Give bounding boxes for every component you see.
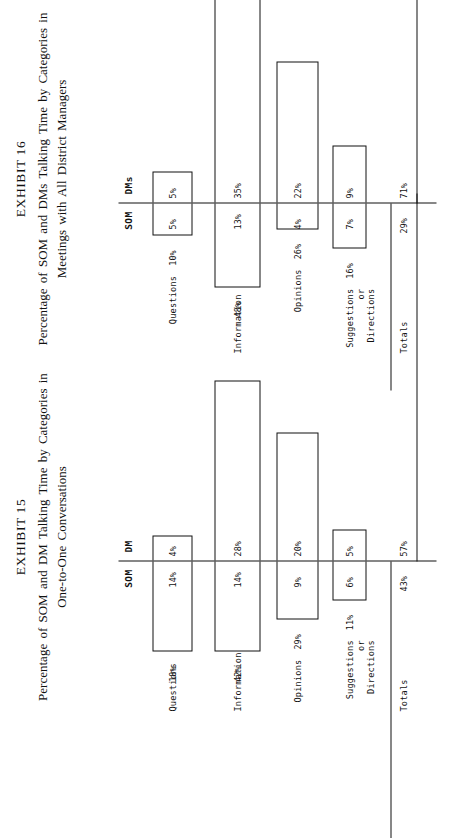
- category-label: Suggestions or Directions: [344, 288, 376, 353]
- som-value: 14%: [232, 572, 242, 587]
- dm-value: 4%: [167, 546, 177, 556]
- bar-axis-divider: [153, 202, 191, 203]
- exhibit-16: EXHIBIT 16 Percentage of SOM and DMs Tal…: [0, 4, 449, 353]
- row-total-value: 18%: [167, 666, 177, 681]
- bar-information: [214, 0, 260, 287]
- category-label: Information: [232, 327, 243, 353]
- column-header-dm: DMs: [122, 176, 133, 194]
- som-value: 9%: [292, 577, 302, 587]
- bar-axis-divider: [215, 560, 259, 561]
- bar-axis-divider: [333, 560, 365, 561]
- row-total-value: 42%: [232, 666, 242, 681]
- category-label: Questions: [167, 691, 178, 711]
- exhibit-16-number: EXHIBIT 16: [12, 4, 28, 353]
- row-total-value: 48%: [232, 301, 242, 316]
- exhibit-15-number: EXHIBIT 15: [12, 362, 28, 711]
- totals-rule: [416, 0, 417, 203]
- row-total-value: 26%: [292, 243, 302, 258]
- bar-axis-divider: [215, 202, 259, 203]
- exhibit-16-title-block: EXHIBIT 16 Percentage of SOM and DMs Tal…: [12, 4, 71, 353]
- dm-value: 9%: [344, 188, 354, 198]
- som-value: 13%: [232, 214, 242, 229]
- dm-value: 22%: [292, 183, 302, 198]
- bar-axis-divider: [277, 560, 317, 561]
- category-label: Suggestions or Directions: [344, 640, 376, 711]
- totals-som-value: 29%: [398, 218, 408, 233]
- column-header-som: SOM: [122, 569, 133, 623]
- exhibit-15-title-block: EXHIBIT 15 Percentage of SOM and DM Talk…: [12, 362, 71, 711]
- exhibit-15-chart: SOMDMQuestions18%14%4%Information42%14%2…: [118, 362, 443, 711]
- row-total-value: 16%: [344, 263, 354, 278]
- totals-dm-value: 71%: [398, 183, 408, 198]
- row-total-value: 10%: [167, 250, 177, 265]
- category-label: Opinions: [292, 659, 303, 711]
- som-value: 14%: [167, 572, 177, 587]
- som-value: 4%: [292, 219, 302, 229]
- totals-dm-value: 57%: [398, 541, 408, 556]
- totals-rule: [390, 203, 391, 390]
- bar-opinions: [276, 432, 318, 619]
- dm-value: 28%: [232, 541, 242, 556]
- dm-value: 5%: [167, 188, 177, 198]
- exhibit-16-subtitle: Percentage of SOM and DMs Talking Time b…: [33, 4, 71, 353]
- som-value: 5%: [167, 219, 177, 229]
- bar-opinions: [276, 61, 318, 229]
- bar-information: [214, 380, 260, 651]
- totals-rule: [390, 561, 391, 838]
- category-label: Opinions: [292, 269, 303, 353]
- dm-value: 5%: [344, 546, 354, 556]
- column-header-dm: DM: [122, 540, 133, 552]
- dm-value: 20%: [292, 541, 302, 556]
- row-total-value: 29%: [292, 634, 302, 649]
- dm-value: 35%: [232, 183, 242, 198]
- som-value: 7%: [344, 219, 354, 229]
- bar-suggestions: [332, 529, 366, 600]
- totals-som-value: 43%: [398, 576, 408, 591]
- totals-label: Totals: [398, 321, 409, 353]
- exhibit-15: EXHIBIT 15 Percentage of SOM and DM Talk…: [0, 362, 449, 711]
- som-value: 6%: [344, 577, 354, 587]
- exhibit-15-subtitle: Percentage of SOM and DM Talking Time by…: [33, 362, 71, 711]
- bar-axis-divider: [153, 560, 191, 561]
- column-header-som: SOM: [122, 211, 133, 265]
- category-label: Information: [232, 691, 243, 711]
- exhibit-16-chart: SOMDMsQuestions10%5%5%Information48%13%3…: [118, 4, 443, 353]
- bar-axis-divider: [277, 202, 317, 203]
- category-label: Questions: [167, 275, 178, 353]
- bar-axis-divider: [333, 202, 365, 203]
- totals-label: Totals: [398, 679, 409, 711]
- row-total-value: 11%: [344, 614, 354, 629]
